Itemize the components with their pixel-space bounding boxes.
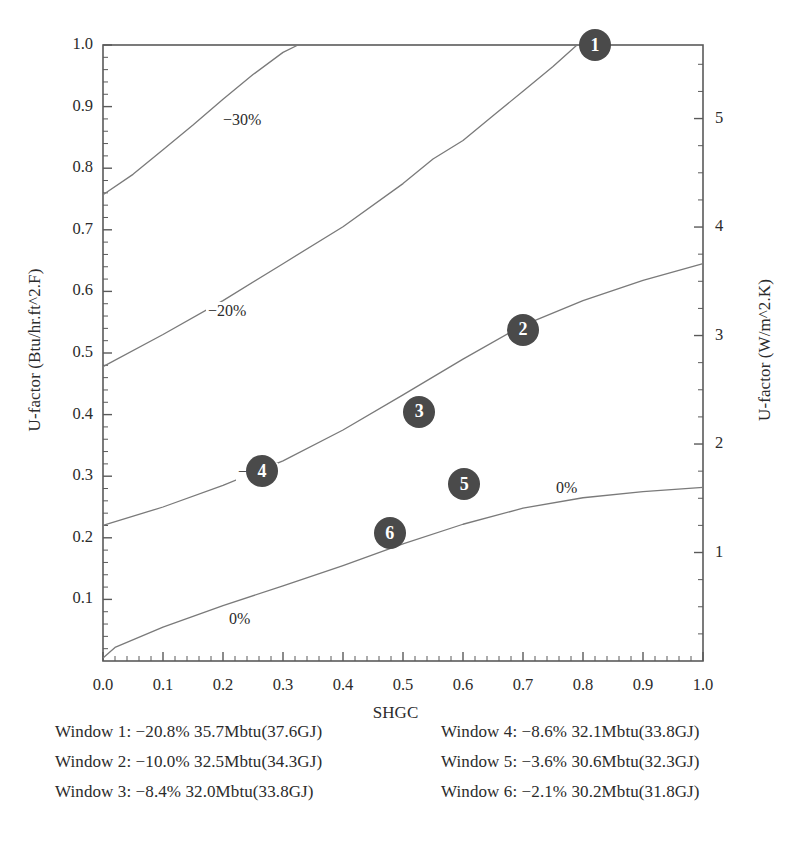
y-tick-left-0.8: 0.8 bbox=[33, 157, 93, 177]
data-point-marker-2[interactable]: 2 bbox=[507, 314, 539, 346]
x-tick-0.1: 0.1 bbox=[133, 675, 193, 695]
y-tick-right-1: 1 bbox=[715, 542, 755, 562]
data-point-marker-1[interactable]: 1 bbox=[579, 29, 611, 61]
contour-line-2 bbox=[103, 264, 703, 526]
y-tick-left-0.7: 0.7 bbox=[33, 219, 93, 239]
contour-label-1: −20% bbox=[206, 302, 248, 320]
contour-label-4: 0% bbox=[554, 479, 579, 497]
y-tick-right-3: 3 bbox=[715, 325, 755, 345]
window-legend: Window 1: −20.8% 35.7Mbtu(37.6GJ)Window … bbox=[0, 722, 791, 802]
y-tick-left-0.9: 0.9 bbox=[33, 96, 93, 116]
contour-label-3: 0% bbox=[227, 610, 252, 628]
y-axis-right-title: U-factor (W/m^2.K) bbox=[755, 240, 775, 460]
legend-entry: Window 5: −3.6% 30.6Mbtu(32.3GJ) bbox=[423, 752, 791, 772]
y-tick-left-0.5: 0.5 bbox=[33, 342, 93, 362]
x-tick-0.9: 0.9 bbox=[613, 675, 673, 695]
x-tick-0.5: 0.5 bbox=[373, 675, 433, 695]
legend-entry: Window 3: −8.4% 32.0Mbtu(33.8GJ) bbox=[55, 782, 423, 802]
y-tick-right-2: 2 bbox=[715, 433, 755, 453]
y-tick-left-0.3: 0.3 bbox=[33, 465, 93, 485]
x-tick-0.2: 0.2 bbox=[193, 675, 253, 695]
contour-line-1 bbox=[103, 45, 577, 367]
y-tick-left-0.4: 0.4 bbox=[33, 404, 93, 424]
contour-label-0: −30% bbox=[221, 111, 263, 129]
y-tick-left-0.1: 0.1 bbox=[33, 588, 93, 608]
y-tick-left-1.0: 1.0 bbox=[33, 34, 93, 54]
chart-figure: U-factor (Btu/hr.ft^2.F) U-factor (W/m^2… bbox=[0, 0, 791, 860]
y-tick-right-4: 4 bbox=[715, 216, 755, 236]
y-tick-left-0.2: 0.2 bbox=[33, 527, 93, 547]
x-tick-0.4: 0.4 bbox=[313, 675, 373, 695]
x-tick-0.7: 0.7 bbox=[493, 675, 553, 695]
y-tick-left-0.6: 0.6 bbox=[33, 280, 93, 300]
y-tick-right-5: 5 bbox=[715, 108, 755, 128]
x-tick-0.6: 0.6 bbox=[433, 675, 493, 695]
legend-entry: Window 1: −20.8% 35.7Mbtu(37.6GJ) bbox=[55, 722, 423, 742]
legend-entry: Window 2: −10.0% 32.5Mbtu(34.3GJ) bbox=[55, 752, 423, 772]
contour-line-0 bbox=[103, 45, 298, 195]
legend-entry: Window 6: −2.1% 30.2Mbtu(31.8GJ) bbox=[423, 782, 791, 802]
contour-line-3 bbox=[103, 487, 703, 658]
legend-entry: Window 4: −8.6% 32.1Mbtu(33.8GJ) bbox=[423, 722, 791, 742]
x-tick-0.8: 0.8 bbox=[553, 675, 613, 695]
x-tick-0.0: 0.0 bbox=[73, 675, 133, 695]
x-tick-0.3: 0.3 bbox=[253, 675, 313, 695]
plot-canvas bbox=[0, 0, 791, 700]
x-tick-1.0: 1.0 bbox=[673, 675, 733, 695]
data-point-marker-3[interactable]: 3 bbox=[403, 396, 435, 428]
x-axis-title: SHGC bbox=[0, 703, 791, 723]
